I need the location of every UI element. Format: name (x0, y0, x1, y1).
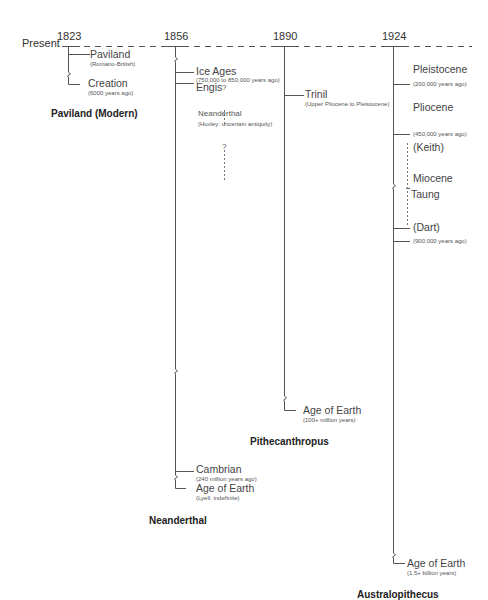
entry-cambrian: Cambrian (196, 463, 242, 475)
entry-ice-ages: Ice Ages (196, 65, 236, 77)
entry-age-of-earth-1890: Age of Earth (303, 404, 361, 416)
line-1856 (175, 47, 187, 489)
note-creation: (6000 years ago) (88, 90, 133, 96)
note-450000: (450,000 years ago) (413, 131, 467, 137)
entry-pliocene: Pliocene (413, 101, 453, 113)
entry-age-of-earth-1856: Age of Earth (196, 482, 254, 494)
note-age-of-earth-1924: (1.5+ billion years) (407, 570, 456, 576)
note-age-of-earth-1856: (Lyell: indefinite) (196, 495, 239, 501)
entry-miocene: Miocene (413, 172, 453, 184)
note-age-of-earth-1890: (100+ million years) (303, 417, 356, 423)
entry-age-of-earth-1924: Age of Earth (407, 557, 465, 569)
entry-keith: (Keith) (413, 141, 444, 153)
entry-pleistocene: Pleistocene (413, 63, 467, 75)
note-200000: (200,000 years ago) (413, 81, 467, 87)
panel-title-australopithecus: Australopithecus (357, 589, 439, 600)
year-1823: 1823 (57, 30, 81, 42)
line-1924 (393, 47, 406, 564)
panel-title-paviland: Paviland (Modern) (51, 108, 138, 119)
question-mark-bottom: ? (222, 142, 226, 151)
entry-neanderthal: Neanderthal (198, 109, 242, 118)
year-1856: 1856 (164, 30, 188, 42)
year-1924: 1924 (382, 30, 406, 42)
panel-title-pithecanthropus: Pithecanthropus (250, 436, 329, 447)
entry-taung: Taung (411, 188, 440, 200)
note-trinil: (Upper Pliocene to Pleistocene) (305, 101, 389, 107)
entry-dart: (Dart) (413, 221, 440, 233)
entry-trinil: Trinil (305, 88, 327, 100)
note-900000: (900,000 years ago) (413, 238, 467, 244)
entry-creation: Creation (88, 77, 128, 89)
entry-paviland: Paviland (90, 48, 130, 60)
line-1890 (284, 47, 297, 411)
entry-engis: Engis (196, 81, 222, 93)
panel-title-neanderthal: Neanderthal (149, 515, 207, 526)
present-label: Present (22, 37, 60, 49)
line-1823 (68, 47, 81, 85)
note-paviland: (Romano-British) (90, 61, 135, 67)
note-neanderthal: (Huxley: uncertain antiquity) (198, 121, 272, 127)
question-mark-top: ? (222, 83, 226, 92)
year-1890: 1890 (273, 30, 297, 42)
